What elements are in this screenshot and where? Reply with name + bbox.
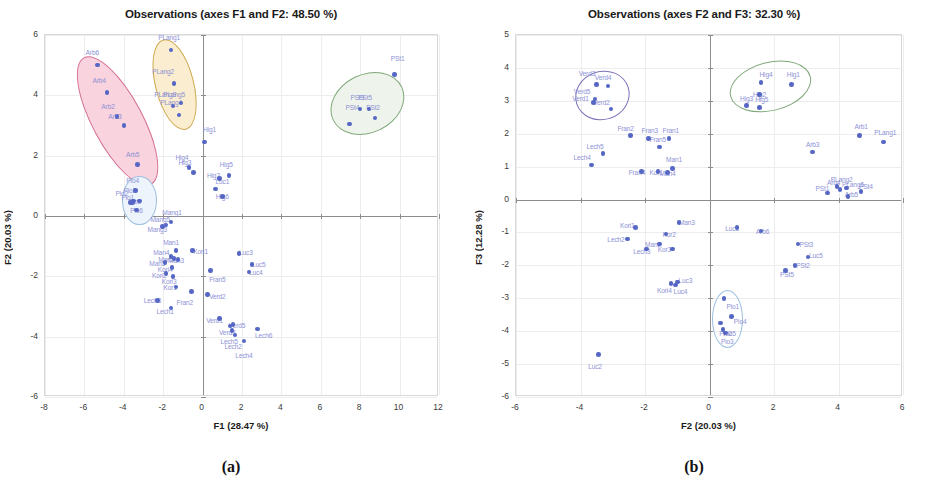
- panel-a-x-axis-title: F1 (28.47 %): [44, 420, 438, 431]
- y-tick-label: -1: [493, 226, 509, 236]
- data-point: [625, 237, 630, 242]
- point-label: Arb3: [806, 140, 819, 147]
- point-label: PLang3: [154, 90, 176, 97]
- data-point: [859, 189, 864, 194]
- tick-mark: [903, 198, 904, 203]
- data-point: [633, 225, 638, 230]
- tick-mark: [708, 134, 713, 135]
- tick-mark: [645, 198, 646, 203]
- x-tick-label: -2: [640, 402, 648, 412]
- tick-mark: [516, 198, 517, 203]
- data-point: [171, 274, 176, 279]
- data-point: [639, 169, 644, 174]
- data-point: [646, 136, 651, 141]
- point-label: PSt3: [799, 240, 813, 247]
- tick-mark: [321, 214, 322, 219]
- data-point: [202, 140, 207, 145]
- data-point: [783, 268, 788, 273]
- point-label: Hig1: [787, 70, 800, 77]
- gridline-horizontal: [45, 35, 437, 36]
- point-label: Arb6: [86, 48, 99, 55]
- tick-mark: [708, 364, 713, 365]
- point-label: Fran2: [177, 298, 193, 305]
- tick-mark: [201, 397, 206, 398]
- y-tick-label: 4: [493, 62, 509, 72]
- point-label: Verd4: [595, 74, 611, 81]
- point-label: Arb4: [93, 77, 106, 84]
- point-label: Luc3: [678, 277, 692, 284]
- panel-a-y-axis-title: F2 (20.03 %): [2, 165, 13, 265]
- data-point: [722, 296, 727, 301]
- data-point: [122, 123, 127, 128]
- data-point: [155, 298, 160, 303]
- point-label: Lech2: [225, 342, 242, 349]
- tick-mark: [708, 167, 713, 168]
- x-tick-label: 2: [239, 402, 244, 412]
- data-point: [213, 187, 218, 192]
- panel-a: Observations (axes F1 and F2: 48.50 %) A…: [0, 0, 462, 478]
- point-label: Verd2: [209, 292, 225, 299]
- point-label: Mang5: [151, 216, 170, 223]
- point-label: Verd3: [579, 69, 595, 76]
- data-point: [657, 145, 662, 150]
- gridline-vertical: [516, 35, 517, 395]
- data-point: [677, 220, 682, 225]
- data-point: [596, 352, 601, 357]
- x-tick-label: 2: [771, 402, 776, 412]
- x-tick-label: 6: [317, 402, 322, 412]
- y-tick-label: 1: [493, 161, 509, 171]
- data-point: [242, 339, 247, 344]
- gridline-horizontal: [45, 156, 437, 157]
- tick-mark: [708, 68, 713, 69]
- data-point: [844, 186, 849, 191]
- panel-a-title: Observations (axes F1 and F2: 48.50 %): [0, 8, 462, 20]
- x-tick-label: 12: [433, 402, 442, 412]
- tick-mark: [400, 214, 401, 219]
- axis-line-horizontal: [516, 200, 901, 201]
- y-tick-label: -6: [22, 391, 38, 401]
- panel-b-y-axis-title: F3 (12.28 %): [473, 165, 484, 265]
- point-label: Hig3: [740, 95, 753, 102]
- tick-mark: [242, 214, 243, 219]
- tick-mark: [708, 265, 713, 266]
- data-point: [665, 170, 670, 175]
- tick-mark: [708, 101, 713, 102]
- point-label: Luc3: [239, 249, 253, 256]
- point-label: Fran3: [642, 127, 658, 134]
- data-point: [657, 242, 662, 247]
- tick-mark: [581, 198, 582, 203]
- tick-mark: [708, 331, 713, 332]
- data-point: [137, 199, 142, 204]
- tick-mark: [439, 214, 440, 219]
- point-label: Hig1: [203, 125, 216, 132]
- panel-a-plot-area: Arb6Arb4Arb2Arb3Arb5PLang1PLang2PLang5PL…: [44, 34, 438, 396]
- axis-line-horizontal: [45, 216, 437, 217]
- x-tick-label: -4: [576, 402, 584, 412]
- data-point: [644, 247, 649, 252]
- point-label: Lech5: [586, 143, 603, 150]
- data-point: [838, 187, 843, 192]
- data-point: [174, 248, 179, 253]
- point-label: Fran1: [663, 126, 679, 133]
- tick-mark: [774, 198, 775, 203]
- data-point: [130, 200, 135, 205]
- data-point: [250, 262, 255, 267]
- data-point: [881, 140, 886, 145]
- point-label: PSt5: [358, 93, 372, 100]
- data-point: [601, 151, 606, 156]
- data-point: [667, 136, 672, 141]
- y-tick-label: -2: [493, 259, 509, 269]
- x-tick-label: 6: [900, 402, 905, 412]
- x-tick-label: -6: [80, 402, 88, 412]
- tick-mark: [708, 35, 713, 36]
- data-point: [806, 255, 811, 260]
- x-tick-label: 0: [199, 402, 204, 412]
- point-label: PSt2: [796, 262, 810, 269]
- data-point: [735, 225, 740, 230]
- data-point: [95, 63, 100, 68]
- data-point: [757, 92, 762, 97]
- point-label: PLang1: [874, 129, 896, 136]
- cluster-ellipse-hig: [724, 53, 816, 121]
- data-point: [169, 220, 174, 225]
- data-point: [846, 194, 851, 199]
